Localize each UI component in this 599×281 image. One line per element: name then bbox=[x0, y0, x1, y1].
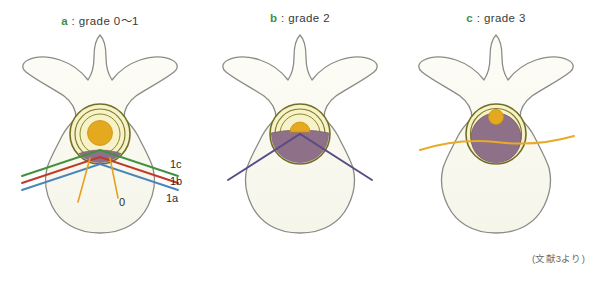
vertebra-grading-figure: a : grade 0～1 bbox=[0, 0, 599, 281]
panel-b: b : grade 2 bbox=[200, 0, 400, 281]
panel-c-separator: : bbox=[473, 12, 484, 24]
panel-a-title: a : grade 0～1 bbox=[0, 12, 200, 28]
panel-a: a : grade 0～1 bbox=[0, 0, 200, 281]
source-reference-note: (文献3より) bbox=[532, 251, 585, 265]
spinal-cord-amber bbox=[489, 110, 504, 125]
label-line-1c: 1c bbox=[170, 158, 182, 170]
panel-c: c : grade 3 bbox=[396, 0, 596, 281]
panel-c-vertebra-illustration bbox=[396, 30, 596, 260]
panel-b-vertebra-illustration bbox=[200, 30, 400, 260]
panel-a-vertebra-illustration bbox=[0, 30, 200, 260]
panel-c-title: c : grade 3 bbox=[396, 12, 596, 24]
label-line-1a: 1a bbox=[166, 192, 178, 204]
panel-a-title-text: grade 0～1 bbox=[79, 15, 139, 27]
label-line-0: 0 bbox=[119, 196, 125, 208]
panel-a-separator: : bbox=[68, 15, 79, 27]
panel-b-title-text: grade 2 bbox=[288, 12, 330, 24]
panel-b-title: b : grade 2 bbox=[200, 12, 400, 24]
label-line-1b: 1b bbox=[170, 175, 182, 187]
panel-b-separator: : bbox=[277, 12, 288, 24]
panel-c-title-text: grade 3 bbox=[484, 12, 526, 24]
panel-a-letter: a bbox=[61, 15, 68, 27]
spinal-cord-amber bbox=[88, 121, 113, 146]
